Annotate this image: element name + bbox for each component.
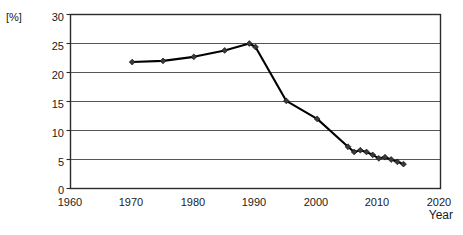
plot-area <box>0 0 463 235</box>
data-line-series-0 <box>132 44 403 165</box>
chart-canvas: [%] 30 25 20 15 10 5 0 1960 1970 1980 19… <box>0 0 463 235</box>
gridlines <box>71 15 441 160</box>
